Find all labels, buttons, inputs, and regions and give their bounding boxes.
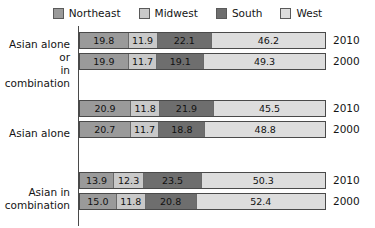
bar-segment-value: 11.7: [132, 56, 153, 67]
bar-segment-midwest: 11.8: [131, 101, 160, 116]
legend-item: Midwest: [139, 7, 198, 19]
legend-swatch-icon: [53, 8, 64, 19]
bar-group: Asian alone20.911.821.945.5201020.711.71…: [0, 100, 375, 140]
stacked-bar: 19.911.719.149.3: [79, 53, 326, 70]
legend-swatch-icon: [139, 8, 150, 19]
stacked-bar: 15.011.820.852.4: [79, 193, 326, 210]
bar-year-label: 2010: [333, 172, 375, 189]
group-category-label: Asian alone orin combination: [0, 38, 70, 90]
bar-segment-south: 18.8: [159, 122, 205, 137]
bar-group: Asian alone orin combination19.811.922.1…: [0, 32, 375, 72]
bar-segment-value: 22.1: [174, 35, 195, 46]
group-category-label-line: in combination: [0, 64, 70, 90]
bar-segment-south: 22.1: [158, 33, 212, 48]
bar-segment-northeast: 13.9: [80, 173, 114, 188]
bar-segment-south: 19.1: [157, 54, 204, 69]
bar-year-label: 2000: [333, 193, 375, 210]
group-category-label-line: combination: [0, 199, 70, 212]
bar-segment-west: 48.8: [205, 122, 325, 137]
stacked-bar: 20.911.821.945.5: [79, 100, 326, 117]
legend-label: Northeast: [69, 7, 121, 19]
bar-year-label: 2010: [333, 100, 375, 117]
bar-segment-value: 20.9: [95, 103, 116, 114]
bar-segment-value: 11.9: [132, 35, 153, 46]
bar-segment-west: 50.3: [202, 173, 325, 188]
legend-label: Midwest: [155, 7, 198, 19]
group-category-label-line: Asian alone: [0, 127, 70, 140]
bar-segment-midwest: 11.8: [117, 194, 146, 209]
bar-group: Asian incombination13.912.323.550.320101…: [0, 172, 375, 212]
bar-segment-value: 11.8: [135, 103, 156, 114]
bar-segment-midwest: 12.3: [114, 173, 144, 188]
bar-segment-midwest: 11.7: [129, 54, 158, 69]
bar-year-label: 2000: [333, 121, 375, 138]
bar-segment-northeast: 19.8: [80, 33, 129, 48]
bar-segment-west: 45.5: [214, 101, 325, 116]
legend-label: West: [296, 7, 322, 19]
bar-segment-value: 20.8: [160, 196, 181, 207]
bar-segment-northeast: 19.9: [80, 54, 129, 69]
bar-segment-value: 19.9: [93, 56, 114, 67]
bar-segment-northeast: 20.7: [80, 122, 131, 137]
bar-segment-south: 20.8: [146, 194, 197, 209]
bar-segment-midwest: 11.9: [129, 33, 158, 48]
bar-year-label: 2000: [333, 53, 375, 70]
legend-label: South: [232, 7, 263, 19]
stacked-bar: 20.711.718.848.8: [79, 121, 326, 138]
bar-segment-value: 12.3: [118, 175, 139, 186]
group-category-label-line: Asian in: [0, 186, 70, 199]
legend-item: South: [216, 7, 263, 19]
bar-segment-value: 11.8: [120, 196, 141, 207]
bar-segment-south: 23.5: [144, 173, 202, 188]
legend-item: West: [280, 7, 322, 19]
bar-segment-value: 49.3: [254, 56, 275, 67]
bar-segment-value: 52.4: [250, 196, 271, 207]
bar-segment-value: 48.8: [255, 124, 276, 135]
bar-segment-value: 46.2: [258, 35, 279, 46]
chart-legend: NortheastMidwestSouthWest: [0, 4, 375, 22]
group-category-label-line: Asian alone or: [0, 38, 70, 64]
group-category-label: Asian alone: [0, 127, 70, 140]
stacked-bar: 19.811.922.146.2: [79, 32, 326, 49]
bar-segment-value: 45.5: [259, 103, 280, 114]
legend-swatch-icon: [280, 8, 291, 19]
legend-swatch-icon: [216, 8, 227, 19]
bar-segment-value: 21.9: [176, 103, 197, 114]
bar-segment-midwest: 11.7: [131, 122, 160, 137]
bar-segment-value: 11.7: [134, 124, 155, 135]
bar-segment-value: 50.3: [253, 175, 274, 186]
bar-segment-northeast: 20.9: [80, 101, 131, 116]
bar-segment-south: 21.9: [160, 101, 214, 116]
bar-segment-value: 19.8: [93, 35, 114, 46]
stacked-bar: 13.912.323.550.3: [79, 172, 326, 189]
chart-plot-area: Asian alone orin combination19.811.922.1…: [0, 24, 375, 228]
bar-segment-value: 20.7: [94, 124, 115, 135]
bar-segment-value: 15.0: [87, 196, 108, 207]
bar-segment-value: 23.5: [162, 175, 183, 186]
bar-segment-value: 13.9: [86, 175, 107, 186]
bar-year-label: 2010: [333, 32, 375, 49]
bar-segment-value: 19.1: [170, 56, 191, 67]
legend-item: Northeast: [53, 7, 121, 19]
group-category-label: Asian incombination: [0, 186, 70, 212]
bar-segment-west: 52.4: [197, 194, 325, 209]
bar-segment-value: 18.8: [171, 124, 192, 135]
bar-segment-west: 49.3: [204, 54, 325, 69]
bar-segment-west: 46.2: [212, 33, 325, 48]
bar-segment-northeast: 15.0: [80, 194, 117, 209]
